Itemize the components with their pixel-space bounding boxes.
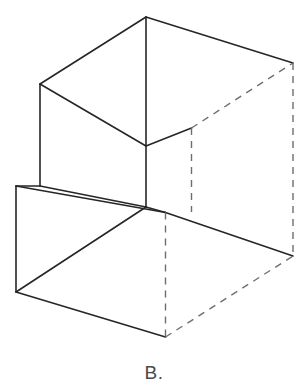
edge-lower-top-right	[166, 213, 294, 257]
edge-top-front-right	[146, 128, 192, 146]
hidden-edge-upper-right-diagonal	[192, 63, 294, 128]
edge-step-top-left	[40, 186, 146, 207]
hidden-edges-group	[166, 63, 294, 337]
edge-top-back-right	[146, 17, 293, 63]
figure-caption: B.	[0, 362, 308, 384]
edge-lower-front-diagonal	[16, 207, 146, 292]
isometric-wireframe-drawing	[0, 0, 308, 392]
edge-top-back-left	[40, 17, 146, 84]
edge-lower-bottom-left	[16, 292, 166, 337]
visible-edges-group	[16, 17, 293, 337]
figure-container: B.	[0, 0, 308, 392]
hidden-edge-bottom-right-diagonal	[166, 256, 294, 337]
edge-top-front-left	[40, 84, 146, 146]
